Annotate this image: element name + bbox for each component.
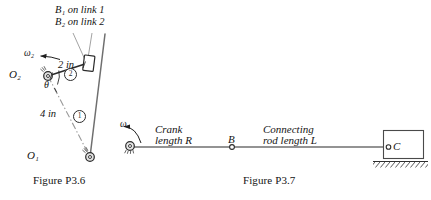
label-pivot-o1: O₁ <box>27 149 39 161</box>
label-point-c: C <box>393 140 400 152</box>
link-number-1-badge: 1 <box>73 110 86 123</box>
caption-figure-p36: Figure P3.6 <box>33 174 85 186</box>
label-crank-line2: length R <box>155 134 192 146</box>
label-point-b: B <box>228 133 235 145</box>
diagram-vector-layer <box>0 0 431 200</box>
joint-b-marker <box>230 145 235 150</box>
figure-p36-geometry <box>40 33 105 161</box>
pivot-o1 <box>82 147 94 161</box>
joint-c-marker <box>386 145 391 150</box>
label-dimension-4in: 4 in <box>40 108 56 120</box>
figure-sheet: B₁ on link 1 B₂ on link 2 ω₂ 2 in 4 in θ… <box>0 0 431 200</box>
label-omega: ω <box>120 119 127 130</box>
link-1-bar <box>90 34 105 157</box>
label-omega2: ω₂ <box>24 48 34 59</box>
label-pivot-o2: O₂ <box>9 68 21 80</box>
pivot-crank-ground <box>125 142 135 154</box>
ground-surface-c <box>373 162 428 168</box>
caption-figure-p37: Figure P3.7 <box>243 174 295 186</box>
label-b2-on-link2: B₂ on link 2 <box>55 16 104 28</box>
label-rod-line2: rod length L <box>263 134 317 146</box>
label-b1-on-link1: B₁ on link 1 <box>55 4 104 16</box>
leader-line-b2 <box>88 33 92 58</box>
link-number-2-badge: 2 <box>64 68 77 81</box>
label-theta: θ <box>44 79 49 90</box>
